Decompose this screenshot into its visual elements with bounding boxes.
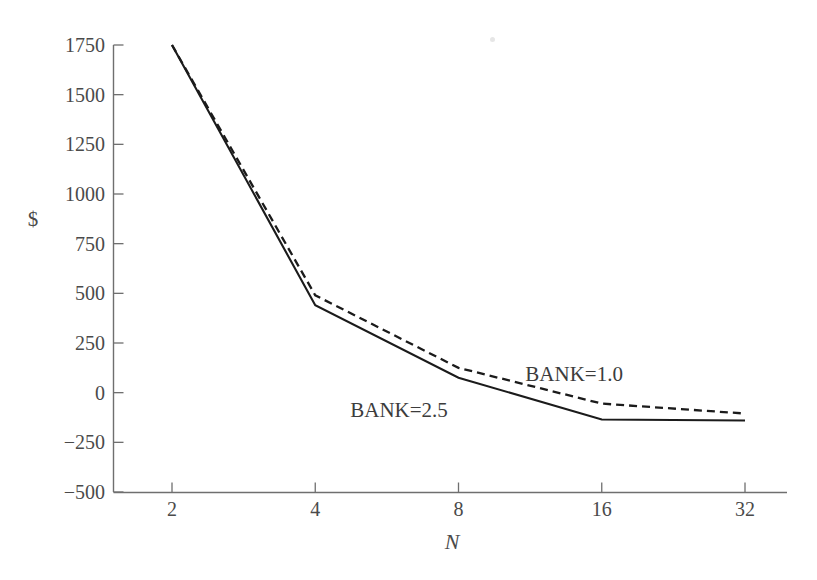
y-axis-tick-label: −500 [64,481,105,503]
chart-figure: −500−25002505007501000125015001750 24816… [0,0,817,580]
x-axis-title: N [444,529,461,554]
x-axis-tick-labels: 2481632 [167,498,755,520]
y-axis-ticks [114,45,124,492]
series-annotation-label: BANK=2.5 [350,398,448,422]
x-axis: 2481632 [114,483,788,521]
line-chart-plot: −500−25002505007501000125015001750 24816… [0,0,817,580]
y-axis-tick-labels: −500−25002505007501000125015001750 [64,34,105,503]
y-axis-tick-label: 1750 [65,34,105,56]
y-axis-tick-label: 1500 [65,84,105,106]
series-annotations: BANK=2.5BANK=1.0 [350,362,623,422]
data-series-group [172,45,745,420]
y-axis-tick-label: 1000 [65,183,105,205]
series-line-solid [172,45,745,420]
y-axis-tick-label: 500 [75,282,105,304]
y-axis-tick-label: 0 [95,382,105,404]
series-line-dashed [172,45,745,414]
x-axis-tick-label: 8 [454,498,464,520]
series-annotation-label: BANK=1.0 [525,362,623,386]
y-axis: −500−25002505007501000125015001750 [64,34,124,503]
x-axis-ticks [172,483,745,493]
y-axis-tick-label: −250 [64,431,105,453]
x-axis-tick-label: 4 [310,498,320,520]
y-axis-title: $ [28,207,39,231]
y-axis-tick-label: 750 [75,233,105,255]
x-axis-tick-label: 2 [167,498,177,520]
x-axis-tick-label: 32 [735,498,755,520]
x-axis-tick-label: 16 [592,498,612,520]
y-axis-tick-label: 1250 [65,133,105,155]
y-axis-tick-label: 250 [75,332,105,354]
